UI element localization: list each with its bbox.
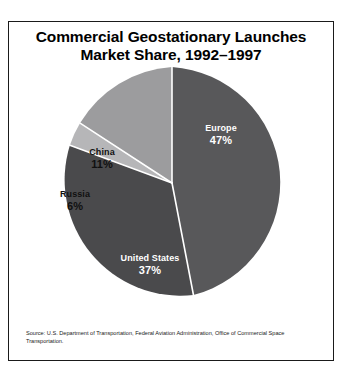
- pie-label-russia-name: Russia: [37, 188, 113, 200]
- page-title: Commercial Geostationary Launches Market…: [9, 28, 333, 64]
- pie-label-china: China 11%: [67, 146, 137, 170]
- pie-label-europe-name: Europe: [181, 122, 261, 134]
- pie-chart-svg: [55, 66, 289, 300]
- pie-label-russia: Russia 6%: [37, 188, 113, 212]
- pie-slice-europe: [172, 67, 280, 295]
- figure-frame: Commercial Geostationary Launches Market…: [8, 21, 334, 361]
- pie-slice-separators: [70, 67, 194, 295]
- pie-label-china-value: 11%: [67, 158, 137, 170]
- pie-label-europe: Europe 47%: [181, 122, 261, 146]
- pie-chart: Europe 47% China 11% Russia 6% United St…: [9, 22, 335, 362]
- pie-slice-china: [80, 67, 172, 183]
- pie-label-united-states: United States 37%: [96, 252, 204, 276]
- pie-label-united-states-name: United States: [96, 252, 204, 264]
- pie-label-united-states-value: 37%: [96, 264, 204, 276]
- pie-slice-russia: [70, 123, 172, 183]
- pie-label-europe-value: 47%: [181, 134, 261, 146]
- pie-label-china-name: China: [67, 146, 137, 158]
- title-line-1: Commercial Geostationary Launches: [9, 28, 333, 46]
- pie-label-russia-value: 6%: [37, 200, 113, 212]
- title-line-2: Market Share, 1992–1997: [9, 46, 333, 64]
- pie-slice-united-states: [65, 145, 194, 296]
- source-note: Source: U.S. Department of Transportatio…: [26, 329, 316, 345]
